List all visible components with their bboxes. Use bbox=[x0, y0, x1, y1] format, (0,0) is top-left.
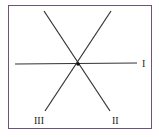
label-I: I bbox=[142, 58, 145, 69]
line-diagram: I II III bbox=[0, 0, 159, 137]
line-III bbox=[45, 11, 111, 111]
label-III: III bbox=[34, 115, 44, 126]
intersection-point bbox=[76, 62, 80, 66]
label-II: II bbox=[112, 115, 119, 126]
line-II bbox=[44, 11, 110, 111]
